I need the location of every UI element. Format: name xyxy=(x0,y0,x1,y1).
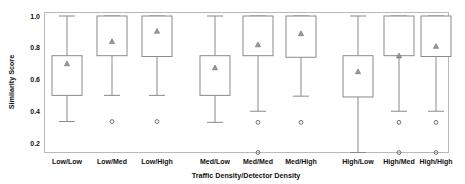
x-category-label: Low/Med xyxy=(97,158,127,165)
box-iqr xyxy=(286,16,316,57)
box-iqr xyxy=(243,16,273,56)
y-tick-label: 1.0 xyxy=(30,13,40,20)
y-tick-label: 0.2 xyxy=(30,140,40,147)
x-axis-title-text: Traffic Density/Detector Density xyxy=(192,171,301,180)
x-category-label: Low/High xyxy=(141,158,173,166)
box-iqr xyxy=(97,16,127,56)
x-category-label: High/Low xyxy=(342,158,374,166)
x-axis-category-labels: Low/LowLow/MedLow/HighMed/LowMed/MedMed/… xyxy=(52,158,453,166)
y-tick-label: 0.4 xyxy=(30,108,40,115)
x-category-label: High/Med xyxy=(383,158,415,166)
y-tick-label: 0.6 xyxy=(30,76,40,83)
box-iqr xyxy=(343,56,373,97)
box-iqr xyxy=(421,16,451,56)
box-iqr xyxy=(200,56,230,96)
x-category-label: Med/Med xyxy=(243,158,273,165)
y-tick-label: 0.8 xyxy=(30,44,40,51)
box-iqr xyxy=(142,16,172,56)
boxplot-figure: 0.20.40.60.81.0 Similarity Score Low/Low… xyxy=(0,0,465,184)
chart-container: 0.20.40.60.81.0 Similarity Score Low/Low… xyxy=(0,0,465,184)
x-category-label: High/High xyxy=(419,158,452,166)
box-iqr xyxy=(384,16,414,56)
y-axis-title-text: Similarity Score xyxy=(7,55,16,109)
y-axis-title: Similarity Score xyxy=(7,55,16,109)
x-category-label: Med/Low xyxy=(200,158,230,165)
x-category-label: Med/High xyxy=(285,158,317,166)
x-category-label: Low/Low xyxy=(52,158,82,165)
